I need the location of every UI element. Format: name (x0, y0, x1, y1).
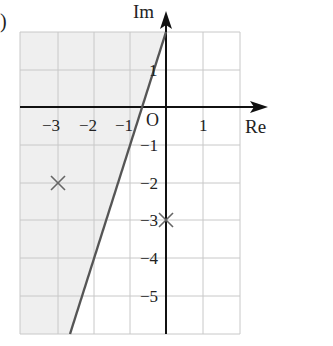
x-tick-label: 1 (199, 116, 208, 135)
x-tick-label: −2 (79, 116, 97, 135)
y-tick-label: 1 (149, 61, 158, 80)
y-tick-label: −2 (140, 174, 158, 193)
y-tick-label: −5 (140, 287, 158, 306)
x-tick-label: −3 (42, 116, 60, 135)
y-axis-label: Im (133, 1, 154, 22)
y-tick-label: −4 (140, 249, 159, 268)
y-tick-label: −1 (140, 136, 158, 155)
y-tick-label: −3 (140, 211, 158, 230)
argand-diagram: ) Im Re (0, 0, 333, 346)
corner-fragment: ) (0, 10, 7, 33)
x-axis-label: Re (245, 116, 266, 137)
origin-label: O (146, 110, 159, 130)
x-tick-label: −1 (115, 116, 133, 135)
